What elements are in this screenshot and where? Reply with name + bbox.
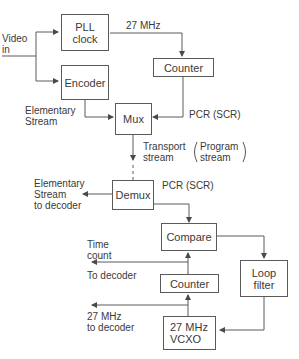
- pcr-top-label: PCR (SCR): [189, 109, 241, 120]
- to-decoder-label: To decoder: [87, 270, 136, 281]
- video-in-label: Video in: [2, 33, 27, 55]
- elementary-to-decoder-label: Elementary Stream to decoder: [34, 178, 85, 211]
- counter-bottom-block: Counter: [160, 274, 219, 293]
- pll-clock-block: PLL clock: [61, 14, 109, 51]
- mux-block: Mux: [115, 103, 152, 135]
- transport-stream-label: Transport stream: [143, 141, 185, 163]
- counter-top-block: Counter: [153, 58, 214, 77]
- 27mhz-to-decoder-label: 27 MHz to decoder: [87, 311, 134, 333]
- vcxo-block: 27 MHz VCXO: [163, 316, 216, 350]
- 27mhz-label: 27 MHz: [126, 20, 160, 31]
- elementary-stream-label: Elementary Stream: [25, 105, 76, 127]
- encoder-block: Encoder: [61, 65, 109, 100]
- loop-filter-block: Loop filter: [240, 260, 288, 297]
- time-count-label: Time count: [87, 239, 111, 261]
- demux-block: Demux: [112, 180, 154, 210]
- compare-block: Compare: [161, 223, 217, 251]
- pcr-bottom-label: PCR (SCR): [162, 180, 214, 191]
- program-stream-label: Program stream: [200, 141, 238, 163]
